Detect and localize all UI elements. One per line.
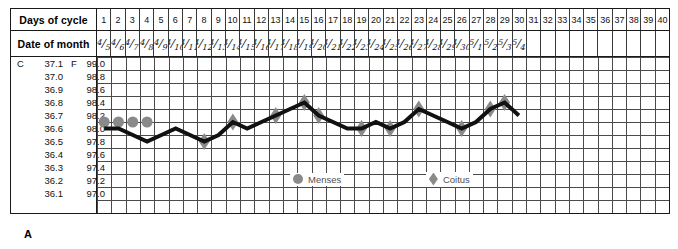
celsius-tick-label: 36.4 [29,149,63,160]
day-cell: 11 [240,9,254,30]
date-fraction: 5/2 [484,38,498,49]
date-fraction: 4/16 [255,38,269,49]
day-cell: 7 [183,9,197,30]
date-cell [641,31,655,56]
day-cell: 25 [441,9,455,30]
axis-tick: 36.698.0 [11,122,97,135]
day-cell: 32 [541,9,555,30]
day-cell: 12 [255,9,269,30]
date-of-month-label: Date of month [11,31,97,56]
date-fraction: 4/11 [183,38,197,49]
menses-marker [113,117,124,128]
date-fraction: 4/6 [111,38,125,49]
date-cell [584,31,598,56]
celsius-tick-label: 36.5 [29,136,63,147]
date-cell: 4/17 [269,31,283,56]
date-cell: 4/14 [226,31,240,56]
days-of-cycle-label: Days of cycle [11,9,97,30]
date-cell: 5/4 [513,31,527,56]
date-cell: 4/7 [126,31,140,56]
date-cell: 4/18 [283,31,297,56]
celsius-tick-label: 37.1 [29,58,63,69]
legend-coitus: Coitus [426,172,473,187]
menses-marker [99,117,110,128]
date-cell: 5/3 [498,31,512,56]
date-cell: 4/30 [455,31,469,56]
day-cell: 5 [154,9,168,30]
date-cell [627,31,641,56]
days-of-cycle-cells: 1234567891011121314151617181920212223242… [97,9,669,30]
date-cell: 4/22 [341,31,355,56]
day-cell: 27 [470,9,484,30]
plot-body: CF37.199.037.098.836.998.636.898.436.798… [11,57,669,213]
date-fraction: 4/30 [455,38,469,49]
axis-tick: 36.998.6 [11,83,97,96]
date-cell: 4/11 [183,31,197,56]
day-cell: 15 [298,9,312,30]
temperature-line [97,57,669,213]
date-cell: 4/16 [255,31,269,56]
date-fraction: 4/20 [312,38,326,49]
date-cell: 4/12 [197,31,211,56]
day-cell: 17 [326,9,340,30]
legend-menses-label: Menses [308,174,341,185]
day-cell: 31 [527,9,541,30]
temperature-series [97,57,669,213]
date-fraction: 4/29 [441,38,455,49]
date-cell: 4/23 [355,31,369,56]
date-fraction: 4/13 [212,38,226,49]
date-cell [656,31,669,56]
date-fraction: 4/14 [226,38,240,49]
date-fraction: 4/19 [298,38,312,49]
date-fraction: 4/17 [269,38,283,49]
date-cell: 4/26 [398,31,412,56]
date-fraction: 5/1 [470,38,484,49]
date-cell: 4/6 [111,31,125,56]
day-cell: 1 [97,9,111,30]
date-fraction: 4/28 [427,38,441,49]
day-cell: 36 [598,9,612,30]
celsius-unit-label: C [17,58,24,69]
date-cell [556,31,570,56]
date-cell: 4/13 [212,31,226,56]
day-cell: 33 [556,9,570,30]
axis-tick: 36.497.6 [11,148,97,161]
day-cell: 28 [484,9,498,30]
celsius-tick-label: 36.3 [29,162,63,173]
date-cell [527,31,541,56]
day-cell: 22 [398,9,412,30]
date-cell: 4/10 [169,31,183,56]
day-cell: 19 [355,9,369,30]
menses-circle-icon [293,174,303,184]
menses-marker [142,117,153,128]
day-cell: 20 [369,9,383,30]
date-fraction: 4/26 [398,38,412,49]
day-cell: 37 [613,9,627,30]
coitus-diamond-icon [429,173,438,186]
day-cell: 39 [641,9,655,30]
day-cell: 35 [584,9,598,30]
celsius-tick-label: 36.6 [29,123,63,134]
bbt-polyline [104,103,519,142]
legend-coitus-label: Coitus [443,174,470,185]
bbt-chart-frame: Days of cycle 12345678910111213141516171… [10,8,670,214]
date-fraction: 4/10 [169,38,183,49]
date-fraction: 4/27 [412,38,426,49]
date-cell: 4/20 [312,31,326,56]
day-cell: 29 [498,9,512,30]
date-fraction: 4/7 [126,38,140,49]
axis-tick: 36.798.2 [11,109,97,122]
date-cell: 4/19 [298,31,312,56]
day-cell: 24 [427,9,441,30]
day-cell: 9 [212,9,226,30]
date-fraction: 5/4 [513,38,527,49]
celsius-tick-label: 36.2 [29,175,63,186]
celsius-tick-label: 36.8 [29,97,63,108]
day-cell: 8 [197,9,211,30]
date-cell: 4/15 [240,31,254,56]
date-cell: 5/1 [470,31,484,56]
days-of-cycle-row: Days of cycle 12345678910111213141516171… [11,9,669,31]
date-fraction: 5/3 [498,38,512,49]
day-cell: 13 [269,9,283,30]
day-cell: 2 [111,9,125,30]
